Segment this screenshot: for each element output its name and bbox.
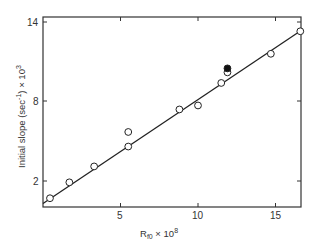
open-data-point <box>176 106 183 113</box>
open-data-point <box>91 163 98 170</box>
x-tick-label: 15 <box>270 210 282 221</box>
open-data-point <box>125 143 132 150</box>
y-tick-label: 14 <box>27 17 39 28</box>
open-data-point <box>195 102 202 109</box>
open-data-point <box>125 129 132 136</box>
y-axis-label: Initial slope (sec-1) × 103 <box>15 65 27 168</box>
x-axis-label: Rf0 × 108 <box>140 227 178 240</box>
y-axis-ticks <box>43 22 301 181</box>
filled-data-point <box>224 65 231 72</box>
plot-frame <box>43 17 301 207</box>
fit-line <box>43 30 302 204</box>
open-data-point <box>47 195 54 202</box>
open-data-point <box>267 50 274 57</box>
scatter-chart: 5 10 15 2 8 14 Rf0 × 108 Initial slope (… <box>0 0 317 243</box>
y-tick-label: 8 <box>33 96 39 107</box>
open-data-point <box>218 80 225 87</box>
x-axis-ticks <box>121 17 276 207</box>
open-data-point <box>297 28 304 35</box>
x-tick-label: 5 <box>117 210 123 221</box>
x-tick-label: 10 <box>192 210 204 221</box>
y-tick-label: 2 <box>33 176 39 187</box>
open-data-point <box>66 179 73 186</box>
